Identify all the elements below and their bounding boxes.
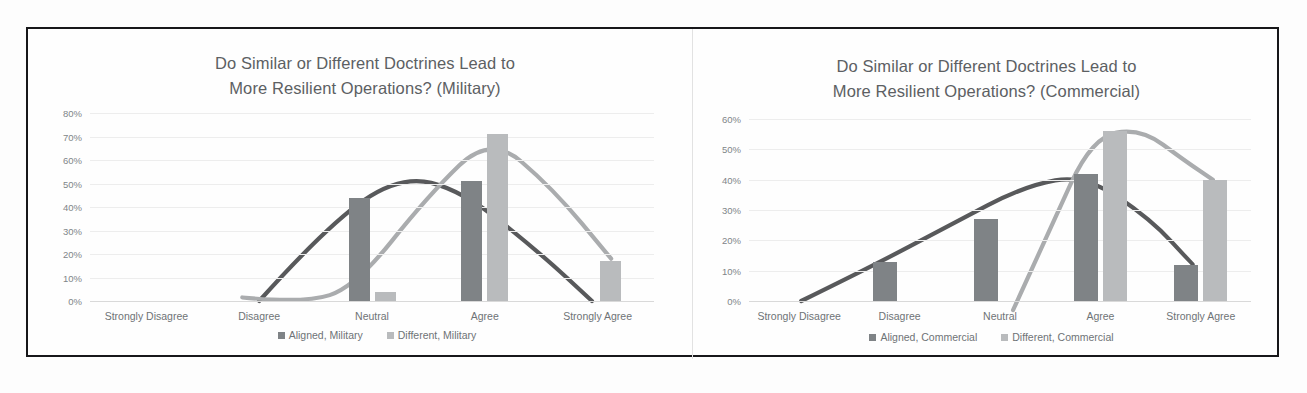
y-axis-tick-label: 30% xyxy=(722,205,741,216)
legend-swatch-different-icon xyxy=(387,332,394,339)
gridline xyxy=(90,137,654,138)
bar-different[interactable] xyxy=(600,261,621,301)
x-axis-tick-label: Strongly Agree xyxy=(1166,310,1235,322)
figure-frame: Do Similar or Different Doctrines Lead t… xyxy=(26,27,1279,357)
y-axis-tick-label: 60% xyxy=(63,155,82,166)
legend-label-different-military: Different, Military xyxy=(398,329,477,341)
chart-military-plot-area: 0%10%20%30%40%50%60%70%80%Strongly Disag… xyxy=(90,113,654,301)
gridline xyxy=(749,119,1251,120)
legend-swatch-aligned-icon xyxy=(278,332,285,339)
y-axis-tick-label: 10% xyxy=(63,272,82,283)
legend-label-aligned-commercial: Aligned, Commercial xyxy=(880,331,977,343)
x-axis-line xyxy=(90,301,654,302)
x-axis-tick-label: Strongly Disagree xyxy=(105,310,188,322)
chart-commercial-legend: Aligned, Commercial Different, Commercia… xyxy=(693,331,1280,343)
gridline xyxy=(90,160,654,161)
legend-item-aligned-military[interactable]: Aligned, Military xyxy=(278,329,363,341)
gridline xyxy=(90,184,654,185)
bar-different[interactable] xyxy=(1203,180,1227,301)
gridline xyxy=(90,207,654,208)
legend-item-different-military[interactable]: Different, Military xyxy=(387,329,477,341)
y-axis-tick-label: 80% xyxy=(63,108,82,119)
legend-label-aligned-military: Aligned, Military xyxy=(289,329,363,341)
bar-different[interactable] xyxy=(1103,131,1127,301)
chart-military-legend: Aligned, Military Different, Military xyxy=(28,329,692,341)
y-axis-tick-label: 40% xyxy=(63,202,82,213)
y-axis-tick-label: 10% xyxy=(722,265,741,276)
x-axis-tick-label: Strongly Disagree xyxy=(757,310,840,322)
x-axis-tick-label: Disagree xyxy=(879,310,921,322)
x-axis-line xyxy=(749,301,1251,302)
gridline xyxy=(90,254,654,255)
x-axis-tick-label: Neutral xyxy=(355,310,389,322)
gridline xyxy=(749,180,1251,181)
chart-commercial: Do Similar or Different Doctrines Lead t… xyxy=(693,29,1280,359)
chart-military-title-line-1: Do Similar or Different Doctrines Lead t… xyxy=(86,51,644,76)
y-axis-tick-label: 50% xyxy=(722,144,741,155)
bar-aligned[interactable] xyxy=(873,262,897,301)
bar-different[interactable] xyxy=(487,134,508,301)
gridline xyxy=(90,231,654,232)
bar-different[interactable] xyxy=(375,292,396,301)
y-axis-tick-label: 0% xyxy=(727,296,741,307)
y-axis-tick-label: 0% xyxy=(68,296,82,307)
y-axis-tick-label: 50% xyxy=(63,178,82,189)
chart-commercial-title: Do Similar or Different Doctrines Lead t… xyxy=(693,54,1280,104)
chart-commercial-title-line-2: More Resilient Operations? (Commercial) xyxy=(733,79,1240,104)
x-axis-tick-label: Neutral xyxy=(983,310,1017,322)
chart-commercial-plot-area: 0%10%20%30%40%50%60%Strongly DisagreeDis… xyxy=(749,119,1251,301)
legend-swatch-aligned-icon xyxy=(869,334,876,341)
y-axis-tick-label: 70% xyxy=(63,131,82,142)
bar-aligned[interactable] xyxy=(1074,174,1098,301)
chart-military-title-line-2: More Resilient Operations? (Military) xyxy=(86,76,644,101)
y-axis-tick-label: 60% xyxy=(722,114,741,125)
bar-aligned[interactable] xyxy=(349,198,370,301)
legend-label-different-commercial: Different, Commercial xyxy=(1012,331,1113,343)
gridline xyxy=(90,278,654,279)
y-axis-tick-label: 40% xyxy=(722,174,741,185)
legend-item-different-commercial[interactable]: Different, Commercial xyxy=(1001,331,1113,343)
x-axis-tick-label: Disagree xyxy=(238,310,280,322)
bar-aligned[interactable] xyxy=(1174,265,1198,301)
gridline xyxy=(90,113,654,114)
bar-aligned[interactable] xyxy=(974,219,998,301)
gridline xyxy=(749,149,1251,150)
figure-canvas: Do Similar or Different Doctrines Lead t… xyxy=(0,0,1307,393)
y-axis-tick-label: 20% xyxy=(722,235,741,246)
x-axis-tick-label: Strongly Agree xyxy=(563,310,632,322)
chart-military: Do Similar or Different Doctrines Lead t… xyxy=(28,29,692,359)
y-axis-tick-label: 20% xyxy=(63,249,82,260)
bar-aligned[interactable] xyxy=(461,181,482,301)
x-axis-tick-label: Agree xyxy=(471,310,499,322)
legend-swatch-different-icon xyxy=(1001,334,1008,341)
chart-commercial-title-line-1: Do Similar or Different Doctrines Lead t… xyxy=(733,54,1240,79)
legend-item-aligned-commercial[interactable]: Aligned, Commercial xyxy=(869,331,977,343)
x-axis-tick-label: Agree xyxy=(1086,310,1114,322)
gridline xyxy=(749,210,1251,211)
chart-military-title: Do Similar or Different Doctrines Lead t… xyxy=(28,51,692,101)
gridline xyxy=(749,240,1251,241)
y-axis-tick-label: 30% xyxy=(63,225,82,236)
